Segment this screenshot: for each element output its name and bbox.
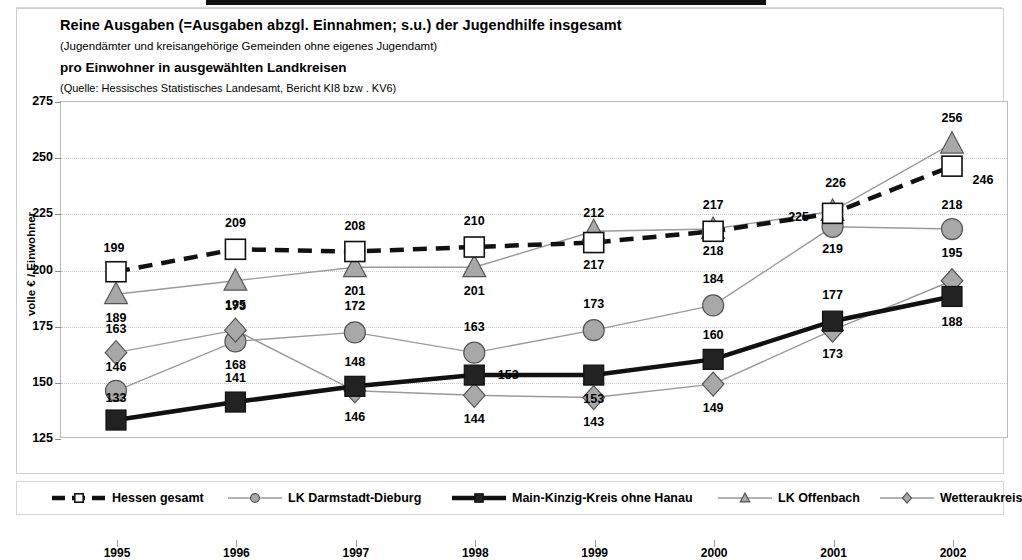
data-point-label: 133 (106, 391, 127, 405)
marker-open-square (464, 237, 484, 257)
marker-filled-circle (583, 320, 604, 341)
data-point-label: 212 (583, 206, 604, 220)
data-point-label: 217 (583, 258, 604, 272)
x-axis-tick-mark (475, 540, 476, 547)
legend-swatch-filled-square-icon (450, 488, 508, 508)
x-axis-tick-label: 2002 (913, 546, 993, 560)
data-point-label: 201 (464, 284, 485, 298)
data-point-label: 209 (225, 216, 246, 230)
data-point-label: 256 (942, 111, 963, 125)
marker-filled-square (475, 494, 483, 502)
marker-open-square (942, 156, 962, 176)
marker-filled-square (823, 311, 843, 331)
marker-filled-square (106, 410, 126, 430)
marker-filled-circle (251, 494, 260, 503)
x-axis-tick-mark (714, 540, 715, 547)
marker-filled-circle (942, 219, 963, 240)
x-axis-tick-mark (356, 540, 357, 547)
legend-swatch-filled-diamond-icon (878, 488, 936, 508)
data-point-label: 188 (942, 315, 963, 329)
top-black-bar (206, 0, 766, 5)
legend-item-lk-darmstadt-dieburg[interactable]: LK Darmstadt-Dieburg (226, 488, 421, 508)
y-axis-tick-label: 250 (0, 150, 53, 164)
data-point-label: 163 (464, 320, 485, 334)
marker-filled-diamond (463, 383, 485, 407)
data-point-label: 163 (106, 322, 127, 336)
data-point-label: 177 (822, 288, 843, 302)
legend-item-wetteraukreis[interactable]: Wetteraukreis (878, 488, 1022, 508)
y-axis-tick-label: 225 (0, 206, 53, 220)
data-point-label: 195 (942, 246, 963, 260)
legend-label: Hessen gesamt (112, 491, 204, 505)
legend-item-hessen-gesamt[interactable]: Hessen gesamt (50, 488, 204, 508)
marker-filled-circle (344, 322, 365, 343)
legend-label: LK Darmstadt-Dieburg (288, 491, 421, 505)
data-point-label: 173 (225, 299, 246, 313)
x-axis-tick-label: 2001 (794, 546, 874, 560)
data-point-label: 160 (703, 328, 724, 342)
marker-open-square (75, 494, 83, 502)
data-point-label: 201 (344, 284, 365, 298)
legend-item-main-kinzig-kreis-ohne-hanau[interactable]: Main-Kinzig-Kreis ohne Hanau (450, 488, 693, 508)
data-point-label: 226 (825, 176, 846, 190)
data-point-label: 217 (703, 198, 724, 212)
data-point-label: 219 (822, 242, 843, 256)
data-point-label: 208 (344, 219, 365, 233)
data-point-label: 173 (583, 297, 604, 311)
marker-filled-square (345, 376, 365, 396)
data-point-label: 218 (703, 244, 724, 258)
marker-filled-square (464, 365, 484, 385)
y-axis-tick-label: 125 (0, 431, 53, 445)
marker-open-square (225, 239, 245, 259)
x-axis-tick-mark (953, 540, 954, 547)
chart-subtitle-scope: (Jugendämter und kreisangehörige Gemeind… (60, 40, 437, 52)
x-axis-tick-mark (117, 540, 118, 547)
x-axis-tick-mark (595, 540, 596, 547)
y-axis-tick-label: 200 (0, 263, 53, 277)
data-point-label: 146 (344, 410, 365, 424)
marker-filled-square (584, 365, 604, 385)
marker-open-square (106, 262, 126, 282)
marker-open-square (823, 203, 843, 223)
chart-title-main: Reine Ausgaben (=Ausgaben abzgl. Einnahm… (60, 17, 622, 33)
x-axis-tick-label: 1996 (196, 546, 276, 560)
data-point-label: 225 (788, 210, 809, 224)
y-axis-tick-label: 175 (0, 319, 53, 333)
x-axis-tick-label: 1997 (316, 546, 396, 560)
chart-title-secondary: pro Einwohner in ausgewählten Landkreise… (60, 60, 347, 75)
x-axis-tick-label: 1995 (77, 546, 157, 560)
marker-filled-triangle (941, 132, 964, 153)
data-point-label: 184 (703, 272, 724, 286)
marker-open-square (584, 233, 604, 253)
chart-source-note: (Quelle: Hessisches Statistisches Landes… (60, 82, 396, 94)
x-axis-tick-mark (236, 540, 237, 547)
data-point-label: 246 (973, 173, 994, 187)
data-point-label: 153 (498, 368, 519, 382)
legend-label: Wetteraukreis (940, 491, 1022, 505)
marker-open-square (703, 221, 723, 241)
data-point-label: 210 (464, 214, 485, 228)
data-point-label: 199 (104, 241, 125, 255)
y-axis-tick-label: 275 (0, 94, 53, 108)
legend-item-lk-offenbach[interactable]: LK Offenbach (716, 488, 860, 508)
marker-filled-square (703, 349, 723, 369)
data-point-label: 149 (703, 401, 724, 415)
data-point-label: 144 (464, 412, 485, 426)
legend-swatch-open-square-icon (50, 488, 108, 508)
marker-filled-diamond (902, 493, 911, 503)
data-point-label: 218 (942, 198, 963, 212)
marker-filled-circle (464, 342, 485, 363)
legend-swatch-filled-circle-icon (226, 488, 284, 508)
marker-filled-diamond (702, 372, 724, 396)
marker-open-square (345, 242, 365, 262)
x-axis-tick-mark (834, 540, 835, 547)
y-axis-tick-label: 150 (0, 375, 53, 389)
legend-swatch-filled-triangle-icon (716, 488, 774, 508)
x-axis-tick-label: 1998 (435, 546, 515, 560)
marker-filled-square (225, 392, 245, 412)
y-axis-tick-mark (55, 439, 61, 440)
x-axis-tick-label: 1999 (555, 546, 635, 560)
data-point-label: 173 (822, 347, 843, 361)
chart-canvas (60, 101, 1008, 438)
legend-label: LK Offenbach (778, 491, 860, 505)
